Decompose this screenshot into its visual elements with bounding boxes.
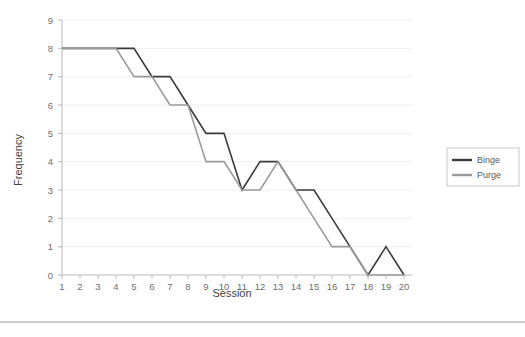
y-tick-label: 6 [48, 100, 53, 111]
x-tick-label: 2 [77, 281, 82, 292]
x-tick-label: 6 [149, 281, 154, 292]
y-tick-label: 2 [48, 213, 53, 224]
x-tick-label: 17 [345, 281, 356, 292]
x-tick-label: 13 [273, 281, 284, 292]
y-tick-label: 0 [48, 270, 53, 281]
y-tick-label: 9 [48, 15, 53, 26]
y-tick-label: 7 [48, 71, 53, 82]
x-tick-label: 19 [381, 281, 392, 292]
y-tick-label: 1 [48, 241, 53, 252]
y-tick-label: 5 [48, 128, 53, 139]
legend-box [447, 148, 519, 186]
x-tick-label: 3 [95, 281, 100, 292]
x-tick-label: 4 [113, 281, 118, 292]
y-tick-label: 4 [48, 156, 53, 167]
x-tick-label: 16 [327, 281, 338, 292]
x-tick-label: 14 [291, 281, 302, 292]
x-tick-label: 1 [59, 281, 64, 292]
y-tick-labels-group: 0123456789 [48, 15, 53, 281]
x-tick-label: 8 [185, 281, 190, 292]
x-axis-title: Session [212, 287, 251, 299]
tickmarks-group [58, 20, 404, 279]
x-tick-label: 12 [255, 281, 266, 292]
x-tick-label: 5 [131, 281, 136, 292]
legend-label-purge: Purge [477, 170, 501, 180]
gridlines-group [62, 20, 412, 247]
line-chart: 0123456789 12345678910111213141516171819… [0, 0, 525, 337]
chart-legend: Binge Purge [447, 148, 519, 186]
y-tick-label: 8 [48, 43, 53, 54]
x-tick-label: 18 [363, 281, 374, 292]
x-tick-label: 20 [399, 281, 410, 292]
legend-label-binge: Binge [477, 155, 500, 165]
chart-figure: 0123456789 12345678910111213141516171819… [0, 0, 525, 337]
x-tick-label: 7 [167, 281, 172, 292]
x-tick-label: 9 [203, 281, 208, 292]
x-tick-label: 15 [309, 281, 320, 292]
y-axis-title: Frequency [12, 134, 24, 186]
y-tick-label: 3 [48, 185, 53, 196]
